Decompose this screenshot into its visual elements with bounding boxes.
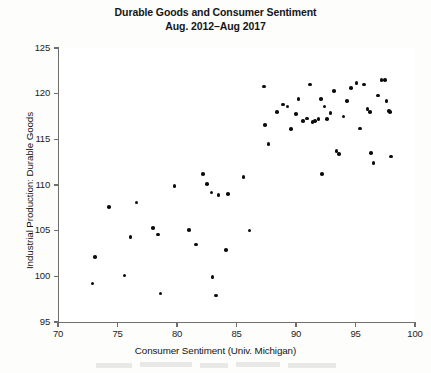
data-point [107, 205, 111, 209]
data-point [388, 110, 392, 114]
x-tick-label: 90 [276, 328, 316, 339]
data-point [305, 117, 309, 121]
x-tick-label: 85 [217, 328, 257, 339]
y-tick-mark [54, 93, 59, 94]
plot-area [58, 48, 415, 322]
y-tick-mark [54, 230, 59, 231]
x-tick-label: 95 [336, 328, 376, 339]
data-point [362, 83, 366, 87]
x-tick-label: 100 [395, 328, 431, 339]
data-point [372, 161, 376, 165]
data-point [151, 226, 155, 230]
data-point [294, 112, 298, 116]
data-point [226, 192, 230, 196]
data-point [383, 78, 387, 82]
data-point [263, 123, 267, 127]
chart-title-line-1: Durable Goods and Consumer Sentiment [0, 6, 431, 20]
data-point [358, 127, 362, 131]
data-point [301, 119, 305, 123]
data-point [262, 85, 266, 89]
data-point [156, 233, 160, 237]
y-tick-mark [54, 139, 59, 140]
y-tick-mark [54, 184, 59, 185]
data-point [187, 228, 191, 232]
x-tick-mark [355, 322, 356, 327]
data-point [369, 151, 373, 155]
data-point [205, 182, 209, 186]
data-point [201, 172, 205, 176]
x-tick-mark [236, 322, 237, 327]
data-point [332, 89, 336, 93]
x-tick-mark [57, 322, 58, 327]
y-axis-label: Industrial Production: Durable Goods [24, 50, 35, 332]
data-point [345, 99, 349, 103]
x-axis-label: Consumer Sentiment (Univ. Michigan) [0, 345, 431, 356]
x-tick-label: 70 [38, 328, 78, 339]
data-point [337, 152, 341, 156]
data-point [319, 97, 323, 101]
data-point [325, 117, 329, 121]
data-point [194, 243, 198, 247]
data-point [297, 97, 301, 101]
chart-title: Durable Goods and Consumer Sentiment Aug… [0, 6, 431, 33]
x-tick-mark [176, 322, 177, 327]
x-tick-label: 75 [98, 328, 138, 339]
x-tick-mark [414, 322, 415, 327]
x-tick-label: 80 [157, 328, 197, 339]
y-tick-mark [54, 276, 59, 277]
data-point [275, 110, 279, 114]
page-scan-artifact [96, 362, 336, 369]
x-tick-mark [117, 322, 118, 327]
chart-title-line-2: Aug. 2012–Aug 2017 [0, 20, 431, 34]
data-point [368, 110, 372, 114]
scatter-plot-figure: Durable Goods and Consumer Sentiment Aug… [0, 0, 431, 373]
data-point [224, 248, 228, 252]
data-point [349, 86, 353, 90]
data-point [329, 111, 333, 115]
data-point [93, 255, 97, 259]
data-point [242, 175, 246, 179]
data-point [320, 172, 324, 176]
x-tick-mark [295, 322, 296, 327]
data-point [385, 99, 389, 103]
y-tick-mark [54, 47, 59, 48]
